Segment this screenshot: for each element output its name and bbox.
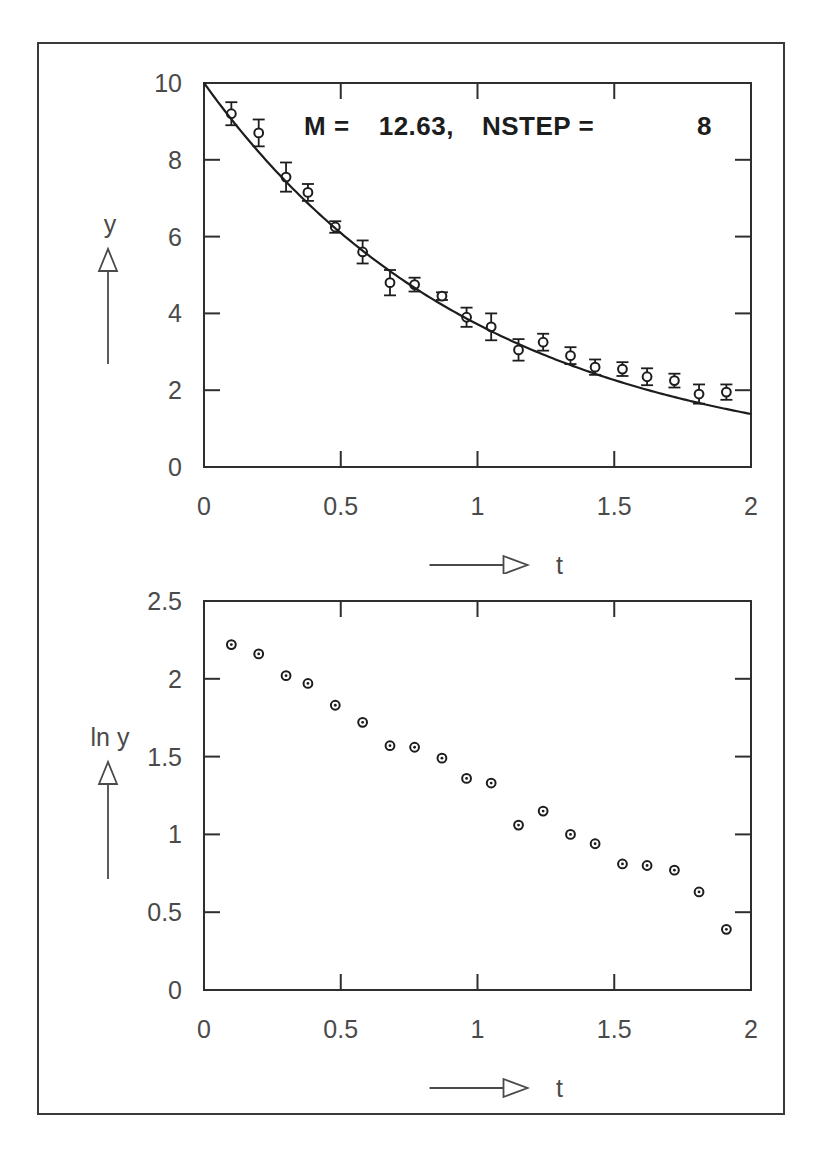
data-point-center-dot [307, 682, 310, 685]
y-tick-label: 10 [154, 69, 182, 97]
x-tick-label: 1 [471, 492, 485, 520]
data-point-marker [643, 372, 652, 381]
annotation-nstep-label: NSTEP = [482, 111, 594, 141]
y-tick-label: 8 [168, 146, 182, 174]
y-axis-arrow-head-icon [99, 762, 117, 784]
data-point-center-dot [569, 833, 572, 836]
bottom-chart-svg: 00.511.5200.511.522.5tln y [39, 574, 787, 1117]
y-tick-label: 0 [168, 976, 182, 1004]
x-tick-label: 2 [744, 492, 758, 520]
figure-outer-frame: 00.511.520246810tyM =12.63,NSTEP =8 00.5… [37, 42, 785, 1115]
data-point-center-dot [646, 864, 649, 867]
annotation-m-value: 12.63, [379, 111, 454, 141]
data-point-marker [722, 388, 731, 397]
y-axis-label: y [104, 210, 117, 238]
data-point-marker [254, 129, 263, 138]
x-axis-arrow-head-icon [504, 1079, 528, 1097]
y-tick-label: 1.5 [147, 743, 182, 771]
y-tick-label: 6 [168, 223, 182, 251]
data-point-center-dot [230, 643, 233, 646]
fit-curve [204, 83, 751, 414]
data-point-marker [304, 188, 313, 197]
x-tick-label: 0.5 [323, 492, 358, 520]
x-tick-label: 1.5 [597, 1015, 632, 1043]
data-point-marker [566, 351, 575, 360]
x-tick-label: 1.5 [597, 492, 632, 520]
data-point-center-dot [389, 744, 392, 747]
x-tick-label: 0.5 [323, 1015, 358, 1043]
x-tick-label: 2 [744, 1015, 758, 1043]
data-point-marker [670, 376, 679, 385]
plot-frame [204, 83, 751, 467]
data-point-center-dot [257, 653, 260, 656]
data-point-center-dot [441, 757, 444, 760]
data-point-center-dot [334, 704, 337, 707]
data-point-marker [514, 345, 523, 354]
data-point-marker [539, 338, 548, 347]
x-tick-label: 0 [197, 492, 211, 520]
x-tick-label: 1 [471, 1015, 485, 1043]
y-axis-arrow-head-icon [99, 249, 117, 271]
plot-frame [204, 601, 751, 990]
x-axis-arrow-head-icon [504, 556, 528, 574]
annotation-nstep-value: 8 [697, 111, 712, 141]
data-point-center-dot [621, 863, 624, 866]
data-point-center-dot [542, 810, 545, 813]
x-tick-label: 0 [197, 1015, 211, 1043]
data-point-center-dot [698, 891, 701, 894]
data-point-center-dot [594, 842, 597, 845]
annotation-m-label: M = [304, 111, 350, 141]
y-tick-label: 0 [168, 453, 182, 481]
data-point-marker [386, 278, 395, 287]
data-point-marker [695, 390, 704, 399]
data-point-center-dot [285, 674, 288, 677]
y-tick-label: 2 [168, 376, 182, 404]
data-point-center-dot [465, 777, 468, 780]
data-point-center-dot [413, 746, 416, 749]
y-tick-label: 4 [168, 299, 182, 327]
data-point-marker [618, 365, 627, 374]
data-point-center-dot [725, 928, 728, 931]
bottom-chart-panel: 00.511.5200.511.522.5tln y [39, 574, 783, 1117]
y-tick-label: 0.5 [147, 898, 182, 926]
y-axis-label: ln y [91, 723, 130, 751]
data-point-center-dot [517, 824, 520, 827]
x-axis-label: t [556, 1074, 563, 1102]
x-axis-label: t [556, 551, 563, 574]
data-point-center-dot [361, 721, 364, 724]
top-chart-svg: 00.511.520246810tyM =12.63,NSTEP =8 [39, 44, 787, 574]
top-chart-panel: 00.511.520246810tyM =12.63,NSTEP =8 [39, 44, 783, 574]
y-tick-label: 2 [168, 665, 182, 693]
data-point-center-dot [490, 782, 493, 785]
data-point-marker [591, 363, 600, 372]
data-point-center-dot [673, 869, 676, 872]
y-tick-label: 1 [168, 820, 182, 848]
y-tick-label: 2.5 [147, 587, 182, 615]
data-point-marker [438, 292, 447, 301]
